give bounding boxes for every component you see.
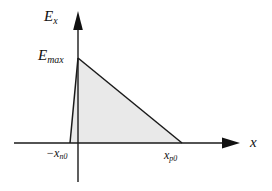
x-tick-label-left: −xn0 <box>46 147 67 159</box>
emax-tick-subscript: max <box>47 54 63 65</box>
electric-field-figure: Ex Emax x −xn0 xp0 <box>0 0 272 191</box>
x-axis-label: x <box>250 135 257 150</box>
y-axis-label: Ex <box>44 9 58 24</box>
emax-tick-label: Emax <box>38 48 64 63</box>
y-axis-arrow-icon <box>73 11 83 30</box>
x-axis-arrow-icon <box>222 138 240 149</box>
shaded-field-region <box>70 58 182 143</box>
y-axis-label-text: E <box>44 8 53 24</box>
x-tick-label-right: xp0 <box>164 149 177 161</box>
x-tick-left-text: −x <box>46 146 59 160</box>
emax-tick-text: E <box>38 47 47 63</box>
x-axis-label-text: x <box>250 134 257 150</box>
plot-canvas <box>0 0 272 191</box>
y-axis-label-subscript: x <box>53 15 57 26</box>
x-tick-right-subscript: p0 <box>169 154 177 163</box>
x-tick-left-subscript: n0 <box>59 152 67 161</box>
